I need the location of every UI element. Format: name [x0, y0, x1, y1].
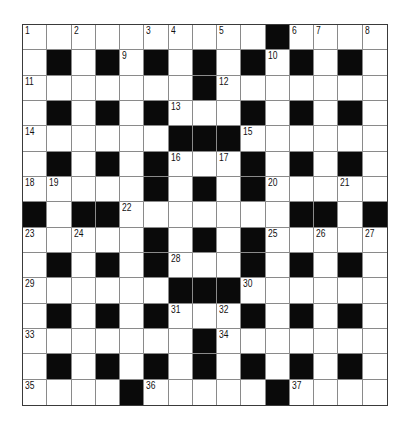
answer-cell[interactable]: [96, 25, 120, 50]
answer-cell[interactable]: [47, 126, 71, 151]
answer-cell[interactable]: [169, 329, 193, 354]
answer-cell[interactable]: [47, 278, 71, 303]
answer-cell[interactable]: [96, 228, 120, 253]
answer-cell[interactable]: [217, 202, 241, 227]
answer-cell[interactable]: 10: [266, 50, 290, 75]
answer-cell[interactable]: [72, 278, 96, 303]
answer-cell[interactable]: 6: [290, 25, 314, 50]
answer-cell[interactable]: [23, 50, 47, 75]
answer-cell[interactable]: [120, 177, 144, 202]
answer-cell[interactable]: [72, 152, 96, 177]
answer-cell[interactable]: [314, 304, 338, 329]
answer-cell[interactable]: [363, 177, 387, 202]
answer-cell[interactable]: [290, 278, 314, 303]
answer-cell[interactable]: [120, 228, 144, 253]
answer-cell[interactable]: [47, 76, 71, 101]
answer-cell[interactable]: 13: [169, 101, 193, 126]
answer-cell[interactable]: 29: [23, 278, 47, 303]
answer-cell[interactable]: [363, 126, 387, 151]
answer-cell[interactable]: [241, 329, 265, 354]
answer-cell[interactable]: [23, 253, 47, 278]
answer-cell[interactable]: 32: [217, 304, 241, 329]
answer-cell[interactable]: [96, 76, 120, 101]
answer-cell[interactable]: [266, 101, 290, 126]
answer-cell[interactable]: [314, 354, 338, 379]
answer-cell[interactable]: [217, 354, 241, 379]
answer-cell[interactable]: 16: [169, 152, 193, 177]
answer-cell[interactable]: [72, 50, 96, 75]
answer-cell[interactable]: [217, 101, 241, 126]
answer-cell[interactable]: [290, 177, 314, 202]
answer-cell[interactable]: [266, 354, 290, 379]
answer-cell[interactable]: 9: [120, 50, 144, 75]
answer-cell[interactable]: 19: [47, 177, 71, 202]
answer-cell[interactable]: 36: [144, 380, 168, 405]
answer-cell[interactable]: [217, 177, 241, 202]
answer-cell[interactable]: 4: [169, 25, 193, 50]
answer-cell[interactable]: 23: [23, 228, 47, 253]
answer-cell[interactable]: [72, 253, 96, 278]
answer-cell[interactable]: [193, 253, 217, 278]
answer-cell[interactable]: [120, 354, 144, 379]
answer-cell[interactable]: [266, 329, 290, 354]
answer-cell[interactable]: [290, 228, 314, 253]
answer-cell[interactable]: [120, 152, 144, 177]
answer-cell[interactable]: [193, 152, 217, 177]
answer-cell[interactable]: 27: [363, 228, 387, 253]
answer-cell[interactable]: [120, 253, 144, 278]
answer-cell[interactable]: [266, 253, 290, 278]
answer-cell[interactable]: 31: [169, 304, 193, 329]
answer-cell[interactable]: [314, 76, 338, 101]
answer-cell[interactable]: [338, 126, 362, 151]
answer-cell[interactable]: 2: [72, 25, 96, 50]
answer-cell[interactable]: [314, 50, 338, 75]
answer-cell[interactable]: 25: [266, 228, 290, 253]
answer-cell[interactable]: [338, 202, 362, 227]
answer-cell[interactable]: [193, 380, 217, 405]
answer-cell[interactable]: [144, 202, 168, 227]
answer-cell[interactable]: [72, 177, 96, 202]
answer-cell[interactable]: [169, 354, 193, 379]
answer-cell[interactable]: 3: [144, 25, 168, 50]
answer-cell[interactable]: [47, 202, 71, 227]
answer-cell[interactable]: 26: [314, 228, 338, 253]
answer-cell[interactable]: [96, 329, 120, 354]
answer-cell[interactable]: [193, 304, 217, 329]
answer-cell[interactable]: [338, 25, 362, 50]
answer-cell[interactable]: [144, 278, 168, 303]
answer-cell[interactable]: 20: [266, 177, 290, 202]
answer-cell[interactable]: 33: [23, 329, 47, 354]
answer-cell[interactable]: [72, 126, 96, 151]
answer-cell[interactable]: [266, 76, 290, 101]
answer-cell[interactable]: [47, 25, 71, 50]
answer-cell[interactable]: [363, 354, 387, 379]
answer-cell[interactable]: [169, 202, 193, 227]
answer-cell[interactable]: [72, 329, 96, 354]
answer-cell[interactable]: [120, 278, 144, 303]
answer-cell[interactable]: [169, 228, 193, 253]
answer-cell[interactable]: [120, 25, 144, 50]
answer-cell[interactable]: [23, 101, 47, 126]
answer-cell[interactable]: 21: [338, 177, 362, 202]
answer-cell[interactable]: [47, 380, 71, 405]
answer-cell[interactable]: [290, 329, 314, 354]
answer-cell[interactable]: 34: [217, 329, 241, 354]
answer-cell[interactable]: [241, 202, 265, 227]
answer-cell[interactable]: [314, 177, 338, 202]
answer-cell[interactable]: [314, 278, 338, 303]
answer-cell[interactable]: [96, 177, 120, 202]
answer-cell[interactable]: 12: [217, 76, 241, 101]
answer-cell[interactable]: [338, 228, 362, 253]
answer-cell[interactable]: [363, 380, 387, 405]
answer-cell[interactable]: [314, 126, 338, 151]
answer-cell[interactable]: [144, 126, 168, 151]
answer-cell[interactable]: [23, 152, 47, 177]
answer-cell[interactable]: 11: [23, 76, 47, 101]
answer-cell[interactable]: [72, 101, 96, 126]
answer-cell[interactable]: [363, 253, 387, 278]
answer-cell[interactable]: [363, 50, 387, 75]
answer-cell[interactable]: 18: [23, 177, 47, 202]
answer-cell[interactable]: [338, 278, 362, 303]
answer-cell[interactable]: [217, 380, 241, 405]
answer-cell[interactable]: [120, 329, 144, 354]
